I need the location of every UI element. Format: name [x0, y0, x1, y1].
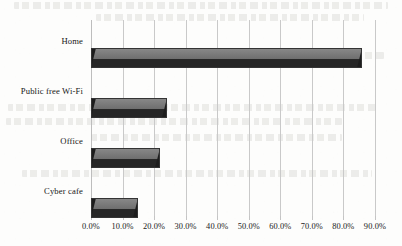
gridline-900 [375, 20, 376, 216]
tickmark-900 [375, 216, 376, 220]
tickmark-700 [312, 216, 313, 220]
category-label-public-free-wifi: Public free Wi-Fi [0, 86, 83, 96]
category-label-cyber-cafe: Cyber cafe [0, 186, 83, 196]
bar-chart: Home Public free Wi-Fi Office Cyber cafe… [0, 0, 402, 246]
bar-top-face [91, 198, 138, 209]
plot-area [91, 20, 375, 216]
bar-front-face [91, 59, 362, 68]
bar-cyber-cafe [91, 198, 138, 218]
bar-front-face [91, 109, 167, 118]
tickmark-500 [249, 216, 250, 220]
bar-home [91, 48, 362, 68]
bar-public-free-wi-fi [91, 98, 167, 118]
bar-right-cap [155, 148, 160, 168]
bar-front-face [91, 159, 160, 168]
tickmark-300 [186, 216, 187, 220]
bar-right-cap [162, 98, 167, 118]
bar-top-face [91, 148, 160, 159]
tickmark-600 [280, 216, 281, 220]
bar-left-bevel [91, 198, 96, 218]
bar-front-face [91, 209, 138, 218]
bar-left-bevel [91, 98, 96, 118]
bar-left-bevel [91, 48, 96, 68]
bar-top-face [91, 48, 362, 59]
tickmark-800 [343, 216, 344, 220]
tickmark-200 [154, 216, 155, 220]
category-label-home: Home [0, 36, 83, 46]
category-label-office: Office [0, 136, 83, 146]
bar-right-cap [357, 48, 362, 68]
bar-right-cap [133, 198, 138, 218]
bar-left-bevel [91, 148, 96, 168]
bar-office [91, 148, 160, 168]
tickmark-400 [217, 216, 218, 220]
bar-top-face [91, 98, 167, 109]
x-tick-label-900: 90.0% [353, 222, 397, 231]
